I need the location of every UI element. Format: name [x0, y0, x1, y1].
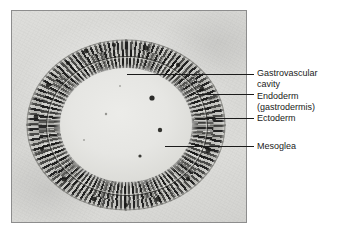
hydra-cross-section-specimen [26, 39, 226, 211]
label-gastrovascular-cavity: Gastrovascular cavity [257, 68, 318, 90]
label-ectoderm-line1: Ectoderm [257, 113, 296, 124]
label-mesoglea: Mesoglea [257, 141, 296, 152]
label-gastrovascular-cavity-line2: cavity [257, 79, 318, 90]
cavity-debris-specks [60, 68, 192, 182]
label-endoderm-line1: Endoderm [257, 91, 315, 102]
label-gastrovascular-cavity-line1: Gastrovascular [257, 68, 318, 79]
gastrovascular-cavity-region [60, 68, 192, 182]
label-mesoglea-line1: Mesoglea [257, 141, 296, 152]
label-ectoderm: Ectoderm [257, 113, 296, 124]
micrograph-panel [11, 10, 247, 223]
label-endoderm-line2: (gastrodermis) [257, 102, 315, 113]
label-endoderm: Endoderm (gastrodermis) [257, 91, 315, 113]
